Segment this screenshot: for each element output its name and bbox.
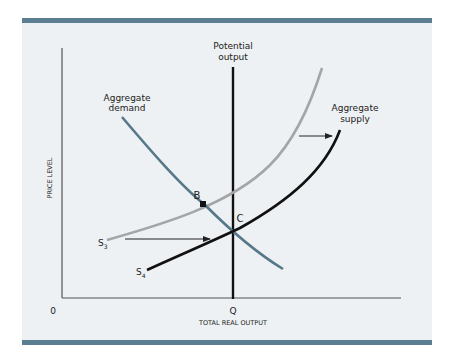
aggregate-demand-label-2: demand	[109, 103, 146, 113]
q-tick-label: Q	[229, 306, 236, 316]
origin-label: 0	[50, 306, 56, 316]
point-c-label: C	[237, 213, 244, 224]
supply-curve-s4	[147, 130, 340, 270]
aggregate-supply-demand-diagram: B C Potential output Aggregate demand Ag…	[0, 0, 454, 364]
s4-label: S4	[136, 267, 146, 279]
s3-label: S3	[98, 238, 108, 250]
point-b-marker	[200, 201, 206, 207]
point-b-label: B	[194, 190, 201, 201]
potential-output-label-1: Potential	[213, 41, 252, 51]
potential-output-label-2: output	[218, 52, 248, 62]
y-axis-label: PRICE LEVEL	[46, 157, 54, 198]
aggregate-supply-label-2: supply	[340, 114, 370, 124]
x-axis-label: TOTAL REAL OUTPUT	[198, 319, 267, 327]
aggregate-supply-label-1: Aggregate	[332, 103, 379, 113]
aggregate-demand-label-1: Aggregate	[104, 93, 151, 103]
